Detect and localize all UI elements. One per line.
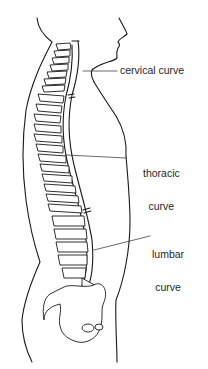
- thoracic-label-line1: thoracic: [143, 168, 180, 179]
- thoracic-curve-label: thoracic curve: [143, 146, 180, 234]
- lumbar-vertebrae: [52, 216, 88, 278]
- spine-front-outline: [69, 41, 93, 292]
- thoracic-label-line2: curve: [143, 201, 180, 212]
- spine-diagram: cervical curve thoracic curve lumbar cur…: [0, 0, 208, 369]
- lumbar-label-line2: curve: [152, 282, 184, 293]
- lumbar-label-line1: lumbar: [152, 249, 184, 260]
- lumbar-leader-line: [94, 236, 150, 250]
- pubic-bone: [95, 324, 103, 330]
- pelvis: [43, 284, 105, 343]
- lumbar-curve-label: lumbar curve: [152, 227, 184, 315]
- thoracic-vertebrae: [34, 94, 82, 213]
- cervical-vertebrae: [42, 43, 71, 92]
- thoracic-leader-line: [66, 155, 126, 158]
- cervical-curve-label: cervical curve: [120, 65, 184, 76]
- thoracic-lumbar-divider: [83, 208, 91, 213]
- hip-socket: [82, 324, 94, 332]
